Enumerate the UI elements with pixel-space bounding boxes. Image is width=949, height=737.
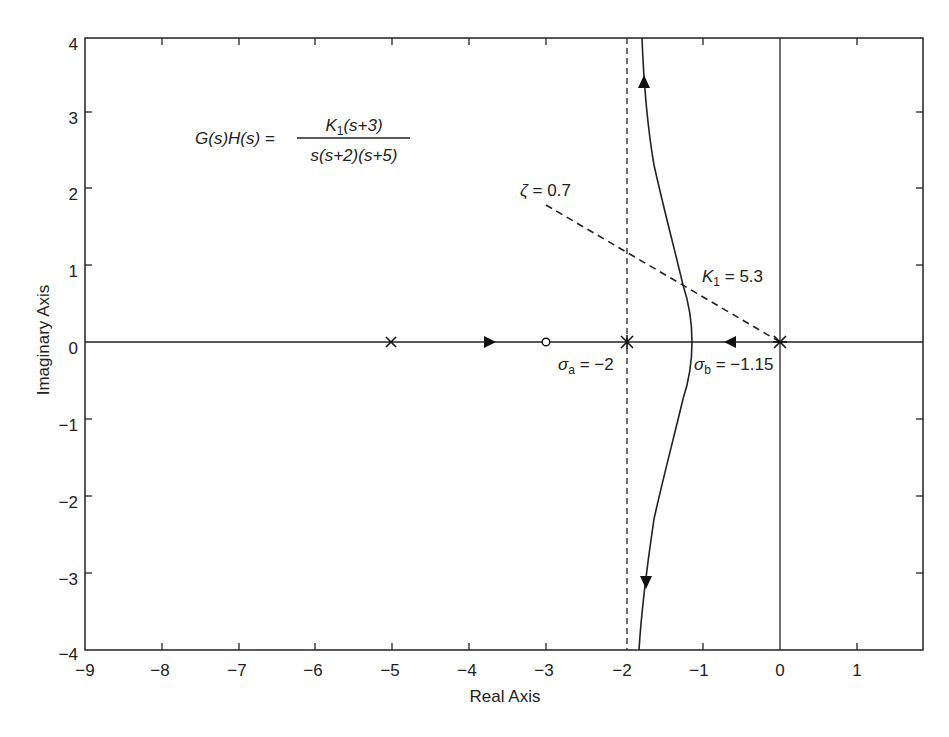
x-tick-label: −9 — [75, 661, 94, 680]
lower-branch — [639, 342, 692, 650]
x-tick-label: −6 — [303, 661, 322, 680]
y-tick-label: 1 — [69, 262, 78, 281]
x-tick-label: 1 — [852, 661, 861, 680]
arrow-down-icon — [640, 576, 652, 589]
root-locus-chart: −9 −8 −7 −6 −5 −4 −3 −2 −1 0 1 4 3 2 1 0… — [0, 0, 949, 737]
sigma-a-label: σa = −2 — [558, 355, 614, 377]
gain-label: K1 = 5.3 — [702, 267, 763, 289]
arrow-left-icon — [724, 336, 736, 348]
arrow-right-icon — [484, 336, 496, 348]
x-tick-label: −1 — [689, 661, 708, 680]
sigma-b-label: σb = −1.15 — [694, 355, 773, 377]
y-tick-label: −3 — [59, 570, 78, 589]
x-tick-label: 0 — [775, 661, 784, 680]
x-tick-label: −8 — [150, 661, 169, 680]
y-tick-label: 2 — [69, 185, 78, 204]
x-tick-label: −2 — [612, 661, 631, 680]
transfer-function: G(s)H(s) = K1(s+3) s(s+2)(s+5) — [195, 116, 410, 165]
x-tick-labels: −9 −8 −7 −6 −5 −4 −3 −2 −1 0 1 — [75, 661, 861, 680]
arrow-up-icon — [638, 75, 650, 88]
x-tick-label: −3 — [534, 661, 553, 680]
x-tick-label: −5 — [380, 661, 399, 680]
x-tick-label: −4 — [457, 661, 476, 680]
x-tick-label: −7 — [227, 661, 246, 680]
zero-marker-icon — [542, 338, 550, 346]
y-tick-labels: 4 3 2 1 0 −1 −2 −3 −4 — [59, 35, 78, 664]
y-axis-title: Imaginary Axis — [34, 285, 53, 396]
tf-denominator: s(s+2)(s+5) — [311, 146, 398, 165]
y-tick-label: 4 — [69, 35, 78, 54]
y-tick-label: −2 — [59, 493, 78, 512]
y-tick-label: 0 — [69, 339, 78, 358]
tf-numerator: K1(s+3) — [325, 116, 382, 138]
y-tick-label: −1 — [59, 416, 78, 435]
x-axis-title: Real Axis — [470, 687, 541, 706]
zeta-label: ζ = 0.7 — [520, 181, 571, 200]
y-tick-label: −4 — [59, 645, 78, 664]
upper-branch — [642, 38, 692, 342]
tf-lhs: G(s)H(s) = — [195, 129, 275, 148]
y-tick-label: 3 — [69, 109, 78, 128]
